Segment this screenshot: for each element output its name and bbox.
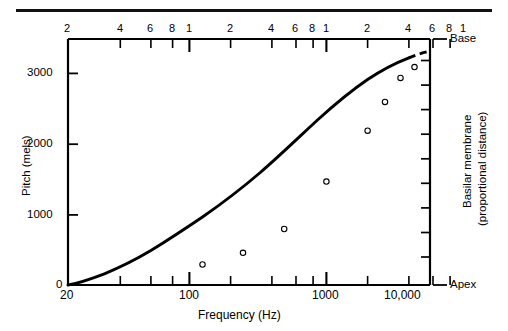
mel-curve-dashed bbox=[409, 51, 430, 58]
data-point bbox=[382, 99, 387, 104]
top-tick-label-6-b: 6 bbox=[292, 22, 298, 34]
right-axis-base-label: Base bbox=[450, 32, 476, 44]
top-tick-label-2-a: 2 bbox=[64, 22, 70, 34]
top-tick-label-4-c: 4 bbox=[405, 22, 411, 34]
data-point bbox=[240, 250, 245, 255]
top-tick-label-2-b: 2 bbox=[227, 22, 233, 34]
mel-curve-solid bbox=[68, 58, 409, 285]
top-tick-label-1-b: 1 bbox=[323, 22, 329, 34]
right-axis-apex-label: Apex bbox=[450, 278, 476, 290]
data-point-markers bbox=[200, 64, 417, 267]
top-tick-label-2-c: 2 bbox=[364, 22, 370, 34]
data-point bbox=[200, 262, 205, 267]
bottom-tick-label-100: 100 bbox=[179, 288, 199, 302]
top-tick-label-6-a: 6 bbox=[147, 22, 153, 34]
top-tick-label-1-a: 1 bbox=[186, 22, 192, 34]
x-axis-title: Frequency (Hz) bbox=[198, 308, 281, 322]
bottom-axis-ticks bbox=[120, 272, 450, 285]
left-axis-ticks bbox=[68, 73, 78, 285]
mel-scale-chart bbox=[0, 0, 508, 331]
data-point bbox=[282, 226, 287, 231]
right-axis-title-line1: Basilar membrane bbox=[461, 115, 473, 208]
data-point bbox=[412, 64, 417, 69]
top-tick-label-8-b: 8 bbox=[309, 22, 315, 34]
y-axis-title: Pitch (mels) bbox=[20, 135, 32, 196]
data-point bbox=[324, 179, 329, 184]
left-tick-label-3000: 3000 bbox=[27, 66, 53, 78]
data-point bbox=[365, 128, 370, 133]
right-axis-ticks bbox=[421, 61, 430, 258]
top-tick-label-4-b: 4 bbox=[268, 22, 274, 34]
top-tick-label-8-a: 8 bbox=[169, 22, 175, 34]
bottom-tick-label-10000: 10,000 bbox=[384, 288, 421, 302]
right-endpoint-connectors bbox=[433, 39, 447, 285]
top-tick-label-6-c: 6 bbox=[429, 22, 435, 34]
bottom-tick-label-1000: 1000 bbox=[312, 288, 339, 302]
top-axis-ticks bbox=[120, 39, 450, 52]
top-tick-label-4-a: 4 bbox=[117, 22, 123, 34]
left-tick-label-1000: 1000 bbox=[27, 208, 53, 220]
data-point bbox=[398, 75, 403, 80]
right-axis-title-line2: (proportional distance) bbox=[476, 112, 488, 226]
bottom-tick-label-20: 20 bbox=[60, 288, 73, 302]
